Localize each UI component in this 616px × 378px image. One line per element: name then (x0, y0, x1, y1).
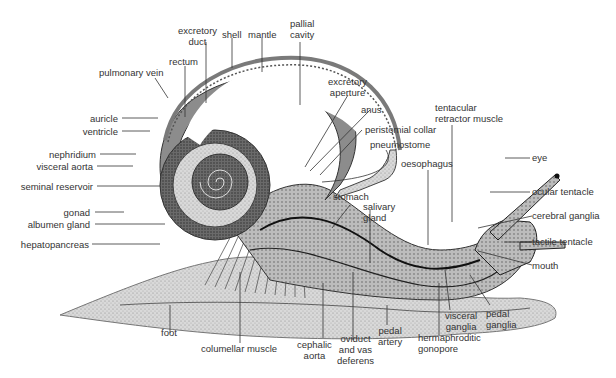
label-line: pedal (378, 325, 402, 336)
label-line: gland (363, 212, 395, 223)
label-mouth: mouth (532, 260, 558, 271)
label-line: aorta (297, 350, 332, 361)
label-pneumostome: pneumostome (370, 139, 430, 150)
label-hepatopancreas: hepatopancreas (10, 239, 89, 250)
label-hermaphroditic-gonopore: hermaphroditic gonopore (418, 332, 481, 354)
label-pallial-cavity: pallial cavity (290, 18, 314, 40)
label-line: ganglia (486, 319, 517, 330)
label-foot: foot (161, 327, 177, 338)
label-auricle: auricle (80, 113, 118, 124)
label-seminal-reservoir: seminal reservoir (5, 181, 93, 192)
label-line: salivary (363, 201, 395, 212)
label-line: retractor muscle (435, 113, 503, 124)
label-pedal-ganglia: pedal ganglia (486, 308, 517, 330)
label-tentacular-retractor-muscle: tentacular retractor muscle (435, 102, 503, 124)
label-salivary-gland: salivary gland (363, 201, 395, 223)
label-anus: anus (361, 104, 382, 115)
label-oesophagus: oesophagus (401, 158, 453, 169)
label-line: oviduct (337, 333, 374, 344)
label-tactile-tentacle: tactile tentacle (532, 236, 593, 247)
label-excretory-aperture: excretory aperture (328, 76, 367, 98)
label-line: ganglia (445, 321, 477, 332)
label-line: excretory (328, 76, 367, 87)
label-shell: shell (222, 29, 242, 40)
snail-anatomy-diagram: excretory duct shell mantle pallial cavi… (0, 0, 616, 378)
label-line: cavity (290, 29, 314, 40)
label-visceral-aorta: visceral aorta (20, 161, 93, 172)
label-line: hermaphroditic (418, 332, 481, 343)
label-nephridium: nephridium (40, 149, 96, 160)
label-eye: eye (532, 152, 547, 163)
label-gonad: gonad (40, 207, 90, 218)
label-line: excretory (178, 25, 217, 36)
label-line: tentacular (435, 102, 503, 113)
label-pedal-artery: pedal artery (378, 325, 402, 347)
label-line: cephalic (297, 339, 332, 350)
label-cephalic-aorta: cephalic aorta (297, 339, 332, 361)
label-line: visceral (445, 310, 477, 321)
label-line: and vas (337, 344, 374, 355)
label-excretory-duct: excretory duct (178, 25, 217, 47)
label-rectum: rectum (169, 56, 198, 67)
label-albumen-gland: albumen gland (20, 219, 90, 230)
label-visceral-ganglia: visceral ganglia (445, 310, 477, 332)
label-peristomial-collar: peristomial collar (365, 124, 436, 135)
label-line: pedal (486, 308, 517, 319)
label-ventricle: ventricle (70, 126, 118, 137)
label-line: aperture (328, 87, 367, 98)
label-columellar-muscle: columellar muscle (201, 343, 277, 354)
label-pulmonary-vein: pulmonary vein (99, 67, 163, 78)
label-line: deferens (337, 355, 374, 366)
label-line: duct (178, 36, 217, 47)
label-cerebral-ganglia: cerebral ganglia (532, 210, 600, 221)
label-oviduct-and-vas-deferens: oviduct and vas deferens (337, 333, 374, 366)
label-line: pallial (290, 18, 314, 29)
label-ocular-tentacle: ocular tentacle (532, 186, 594, 197)
label-line: gonopore (418, 343, 481, 354)
label-line: artery (378, 336, 402, 347)
label-mantle: mantle (248, 29, 277, 40)
